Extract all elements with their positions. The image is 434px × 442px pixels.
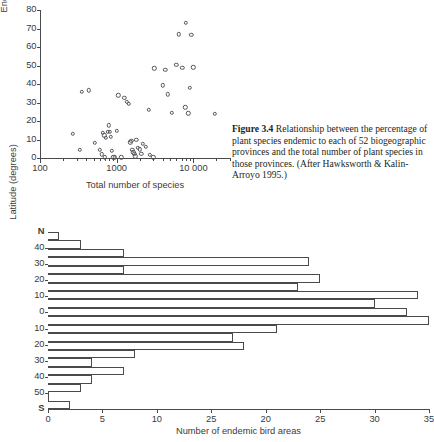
bar-x-tick-label: 20 bbox=[261, 415, 271, 424]
scatter-point bbox=[71, 132, 75, 136]
scatter-x-minor-tick bbox=[163, 158, 164, 161]
scatter-point bbox=[180, 65, 184, 69]
scatter-point bbox=[183, 105, 187, 109]
scatter-point bbox=[152, 66, 156, 70]
bar-rect bbox=[48, 291, 418, 299]
scatter-chart-panel: Endemic species (%) 01020304050607080 10… bbox=[0, 0, 240, 196]
scatter-point bbox=[174, 63, 178, 67]
scatter-point bbox=[186, 111, 190, 115]
bar-x-tick-mark bbox=[102, 409, 103, 413]
scatter-y-axis-label: Endemic species (%) bbox=[0, 0, 9, 28]
scatter-y-tick-label: 80 bbox=[26, 5, 36, 14]
bar-rect bbox=[48, 283, 298, 291]
scatter-point bbox=[139, 151, 143, 155]
bar-x-tick-mark bbox=[48, 409, 49, 413]
bar-y-tick-label: 0 bbox=[39, 308, 44, 317]
scatter-y-tick-label: 50 bbox=[26, 61, 36, 70]
bar-x-tick-mark bbox=[375, 409, 376, 413]
scatter-x-axis-line: 100100010 000 bbox=[40, 158, 230, 159]
bar-x-axis-label: Number of endemic bird areas bbox=[48, 426, 429, 436]
bar-y-tick-label: S bbox=[38, 404, 44, 413]
scatter-point bbox=[165, 92, 169, 96]
scatter-point bbox=[78, 147, 82, 151]
scatter-x-minor-tick bbox=[190, 158, 191, 161]
bar-x-tick-mark bbox=[320, 409, 321, 413]
scatter-point bbox=[184, 21, 188, 25]
scatter-x-tick-label: 10 000 bbox=[179, 164, 207, 173]
scatter-y-tick-label: 0 bbox=[31, 153, 36, 162]
scatter-point bbox=[188, 85, 192, 89]
scatter-x-minor-tick bbox=[140, 158, 141, 161]
scatter-x-tick-label: 1000 bbox=[106, 164, 127, 173]
scatter-x-minor-tick bbox=[86, 158, 87, 161]
bar-y-tick-label: 10 bbox=[34, 324, 44, 333]
scatter-x-minor-tick bbox=[176, 158, 177, 161]
scatter-point bbox=[146, 107, 150, 111]
scatter-point bbox=[104, 135, 108, 139]
bar-x-tick-mark bbox=[211, 409, 212, 413]
scatter-point bbox=[163, 68, 167, 72]
scatter-y-tick-label: 30 bbox=[26, 98, 36, 107]
scatter-point bbox=[161, 83, 165, 87]
bar-y-tick-label: 20 bbox=[34, 276, 44, 285]
bar-y-tick-label: N bbox=[38, 227, 45, 236]
bar-x-axis-line: 05102520253035 bbox=[48, 409, 429, 410]
bar-y-tick-label: 40 bbox=[34, 243, 44, 252]
bar-rect bbox=[48, 299, 375, 307]
figure-caption: Figure 3.4 Relationship between the perc… bbox=[232, 123, 432, 181]
scatter-x-minor-tick bbox=[186, 158, 187, 161]
scatter-x-minor-tick bbox=[100, 158, 101, 161]
scatter-point bbox=[133, 154, 137, 158]
bar-y-tick-label: 20 bbox=[34, 340, 44, 349]
bar-y-tick-label: 40 bbox=[34, 372, 44, 381]
scatter-x-minor-tick bbox=[63, 158, 64, 161]
bar-rect bbox=[48, 266, 124, 274]
scatter-y-tick-label: 70 bbox=[26, 24, 36, 33]
scatter-x-minor-tick bbox=[182, 158, 183, 161]
scatter-x-minor-tick bbox=[109, 158, 110, 161]
scatter-point bbox=[144, 144, 148, 148]
figure-caption-label: Figure 3.4 bbox=[232, 123, 273, 134]
scatter-x-minor-tick bbox=[230, 158, 231, 161]
scatter-x-axis-label: Total number of species bbox=[40, 180, 230, 190]
bar-rect bbox=[48, 308, 407, 316]
bar-x-tick-label: 10 bbox=[152, 415, 162, 424]
bar-y-axis-label: Latitude (degrees) bbox=[8, 112, 18, 252]
bar-rect bbox=[48, 232, 59, 240]
bar-y-tick-label: 30 bbox=[34, 260, 44, 269]
scatter-point bbox=[86, 88, 90, 92]
bar-rect bbox=[48, 384, 81, 392]
scatter-x-tick-label: 100 bbox=[32, 164, 48, 173]
scatter-y-tick-label: 40 bbox=[26, 79, 36, 88]
scatter-plot-area bbox=[40, 10, 225, 158]
bar-rect bbox=[48, 333, 233, 341]
scatter-y-tick-label: 60 bbox=[26, 42, 36, 51]
bar-x-tick-label: 35 bbox=[424, 415, 434, 424]
scatter-point bbox=[191, 65, 195, 69]
scatter-point bbox=[176, 32, 180, 36]
bar-rect bbox=[48, 257, 309, 265]
scatter-point bbox=[189, 33, 193, 37]
bar-rect bbox=[48, 325, 277, 333]
bar-rect bbox=[48, 367, 124, 375]
bar-x-tick-label: 30 bbox=[369, 415, 379, 424]
scatter-point bbox=[127, 102, 131, 106]
bar-y-tick-mark bbox=[45, 393, 49, 394]
scatter-x-minor-tick bbox=[94, 158, 95, 161]
bar-x-tick-mark bbox=[157, 409, 158, 413]
bar-rect bbox=[48, 316, 429, 324]
bar-rect bbox=[48, 249, 124, 257]
bar-x-tick-label: 25 bbox=[206, 415, 216, 424]
scatter-point bbox=[80, 90, 84, 94]
scatter-point bbox=[134, 138, 138, 142]
bar-rect bbox=[48, 350, 135, 358]
scatter-x-minor-tick bbox=[170, 158, 171, 161]
scatter-point bbox=[116, 93, 120, 97]
scatter-x-minor-tick bbox=[216, 158, 217, 161]
scatter-point bbox=[110, 148, 114, 152]
scatter-point bbox=[109, 135, 113, 139]
bar-y-tick-label: 50 bbox=[34, 388, 44, 397]
bar-x-tick-label: 25 bbox=[315, 415, 325, 424]
bar-rect bbox=[48, 358, 92, 366]
scatter-point bbox=[169, 111, 173, 115]
